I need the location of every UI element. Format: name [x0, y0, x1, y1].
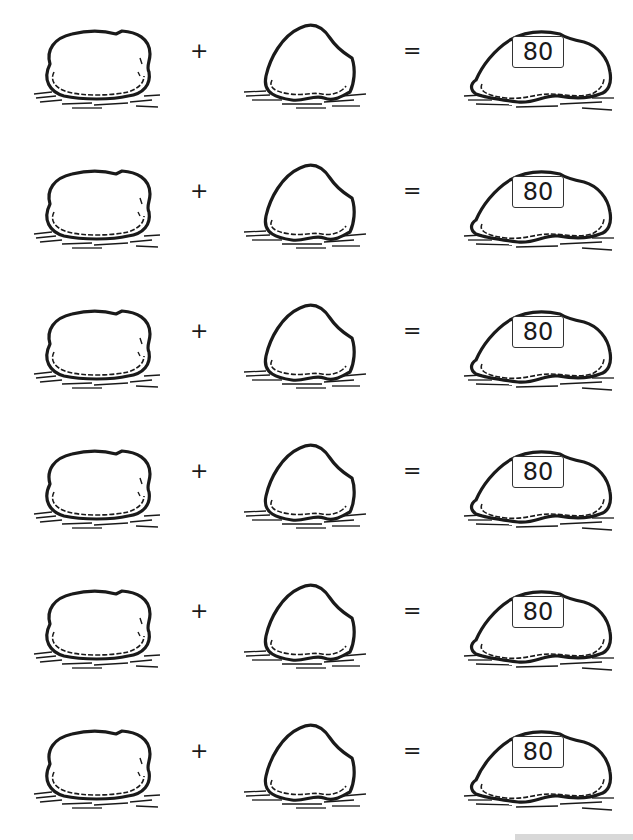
sum-box: 80 — [512, 596, 564, 628]
addend-1-rock-icon — [32, 14, 160, 114]
equals-sign: = — [403, 40, 421, 62]
addend-1-rock-icon — [32, 714, 160, 814]
equation-row-4: + = 80 — [0, 420, 633, 560]
sum-rock-icon: 80 — [462, 574, 617, 674]
addend-2-rock-icon — [242, 574, 366, 674]
sum-rock-icon: 80 — [462, 294, 617, 394]
equals-sign: = — [403, 180, 421, 202]
addend-2-rock-icon — [242, 294, 366, 394]
sum-box: 80 — [512, 176, 564, 208]
equals-sign: = — [403, 740, 421, 762]
equation-row-5: + = 80 — [0, 560, 633, 700]
sum-rock-icon: 80 — [462, 714, 617, 814]
addend-2-rock-icon — [242, 434, 366, 534]
equals-sign: = — [403, 460, 421, 482]
addend-2-rock-icon — [242, 714, 366, 814]
equals-sign: = — [403, 320, 421, 342]
equals-sign: = — [403, 600, 421, 622]
sum-rock-icon: 80 — [462, 154, 617, 254]
plus-sign: + — [190, 740, 208, 762]
plus-sign: + — [190, 320, 208, 342]
sum-rock-icon: 80 — [462, 14, 617, 114]
addend-1-rock-icon — [32, 154, 160, 254]
plus-sign: + — [190, 460, 208, 482]
sum-box: 80 — [512, 456, 564, 488]
plus-sign: + — [190, 180, 208, 202]
addend-1-rock-icon — [32, 434, 160, 534]
plus-sign: + — [190, 40, 208, 62]
sum-box: 80 — [512, 736, 564, 768]
addend-2-rock-icon — [242, 154, 366, 254]
equation-row-2: + = 80 — [0, 140, 633, 280]
equation-row-1: + = 80 — [0, 0, 633, 140]
addend-2-rock-icon — [242, 14, 366, 114]
page-edge-shadow — [515, 834, 633, 840]
addend-1-rock-icon — [32, 574, 160, 674]
equation-row-3: + = 80 — [0, 280, 633, 420]
plus-sign: + — [190, 600, 208, 622]
sum-rock-icon: 80 — [462, 434, 617, 534]
sum-box: 80 — [512, 36, 564, 68]
addend-1-rock-icon — [32, 294, 160, 394]
equation-row-6: + = 80 — [0, 700, 633, 840]
sum-box: 80 — [512, 316, 564, 348]
